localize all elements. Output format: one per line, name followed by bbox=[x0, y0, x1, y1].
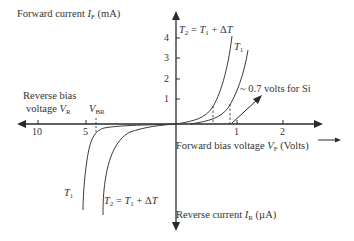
breakdown-voltage-label: VBR bbox=[89, 104, 105, 116]
diode-iv-diagram bbox=[0, 0, 354, 241]
x-axis-reverse-label-line1: Reverse bias bbox=[23, 91, 76, 102]
y-axis-down-arrow-icon bbox=[172, 222, 180, 231]
x-tick-label: 2 bbox=[280, 127, 285, 137]
forward-curve-t1-label: T1 bbox=[234, 42, 243, 54]
label-unit: (Volts) bbox=[278, 140, 309, 151]
x-tick-label: 10 bbox=[32, 127, 42, 137]
x-axis-reverse-label-line2: voltage VR bbox=[26, 104, 71, 116]
label-unit: (mA) bbox=[95, 8, 120, 19]
x-tick-label: 5 bbox=[83, 127, 88, 137]
label-text: = bbox=[188, 24, 199, 35]
y-axis-up-arrow-icon bbox=[172, 11, 180, 20]
label-text: + Δ bbox=[209, 24, 227, 35]
y-tick-label: 4 bbox=[164, 33, 169, 43]
label-text: Forward current bbox=[17, 8, 88, 19]
direction-arrow-icon bbox=[318, 138, 341, 143]
y-axis-reverse-label: Reverse current IR (µA) bbox=[176, 210, 276, 222]
y-tick-label: 2 bbox=[164, 74, 169, 84]
label-text: = bbox=[113, 195, 124, 206]
label-unit: (µA) bbox=[253, 209, 276, 220]
label-text: voltage bbox=[26, 103, 60, 114]
label-text: Reverse current bbox=[176, 209, 245, 220]
forward-curve-t2-label: T2 = T1 + ΔT bbox=[179, 25, 233, 37]
y-tick-label: 1 bbox=[164, 94, 169, 104]
label-sub: R bbox=[66, 108, 71, 116]
x-tick-label: 1 bbox=[234, 127, 239, 137]
label-text: Forward bias voltage bbox=[176, 140, 267, 151]
forward-curve-t2 bbox=[176, 36, 232, 124]
label-sub: BR bbox=[95, 108, 104, 116]
x-axis-right-arrow-icon bbox=[314, 120, 323, 128]
reverse-curve-t1-label: T1 bbox=[64, 188, 73, 200]
y-tick-label: 3 bbox=[164, 53, 169, 63]
reverse-curve-t2-label: T2 = T1 + ΔT bbox=[104, 196, 158, 208]
x-axis-forward-label: Forward bias voltage VF (Volts) bbox=[176, 141, 309, 153]
x-axis-left-arrow-icon bbox=[17, 120, 26, 128]
label-sub: 1 bbox=[240, 46, 244, 54]
annotation-arrow-icon bbox=[232, 95, 262, 123]
label-text: + Δ bbox=[134, 195, 152, 206]
label-sub: 1 bbox=[70, 192, 74, 200]
y-axis-forward-label: Forward current IF (mA) bbox=[17, 9, 120, 21]
label-var: T bbox=[152, 195, 158, 206]
label-var: T bbox=[227, 24, 233, 35]
silicon-threshold-annotation: ~ 0.7 volts for Si bbox=[240, 84, 311, 95]
